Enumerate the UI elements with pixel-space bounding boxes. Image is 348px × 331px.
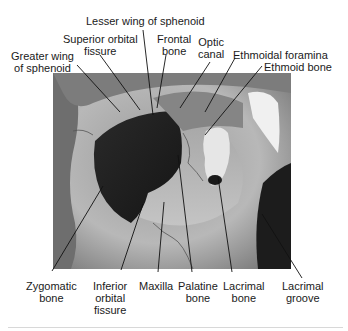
label-line: canal bbox=[198, 48, 224, 60]
label-line: Maxilla bbox=[139, 280, 173, 292]
label-line: Inferior bbox=[93, 280, 127, 292]
label-line: Superior orbital bbox=[63, 33, 138, 45]
label-line: Lacrimal bbox=[282, 280, 324, 292]
label-line: Greater wing bbox=[11, 50, 74, 62]
label-line: bone bbox=[26, 292, 77, 304]
label-line: bone bbox=[223, 292, 265, 304]
label-line: Lesser wing of sphenoid bbox=[86, 15, 205, 27]
label-line: Frontal bbox=[157, 33, 191, 45]
label-optic-canal: Optic canal bbox=[198, 36, 224, 60]
label-line: bone bbox=[178, 292, 218, 304]
label-line: Ethmoidal foramina bbox=[233, 49, 328, 61]
bottom-divider bbox=[8, 327, 343, 328]
label-frontal-bone: Frontal bone bbox=[157, 33, 191, 57]
label-inferior-orbital-fissure: Inferior orbital fissure bbox=[93, 280, 127, 316]
label-line: fissure bbox=[63, 45, 138, 57]
orbit-photograph bbox=[53, 73, 291, 269]
label-lacrimal-bone: Lacrimal bone bbox=[223, 280, 265, 304]
label-zygomatic-bone: Zygomatic bone bbox=[26, 280, 77, 304]
label-greater-wing-of-sphenoid: Greater wing of sphenoid bbox=[11, 50, 74, 74]
label-line: Optic bbox=[198, 36, 224, 48]
label-line: Zygomatic bbox=[26, 280, 77, 292]
label-line: Lacrimal bbox=[223, 280, 265, 292]
label-superior-orbital-fissure: Superior orbital fissure bbox=[63, 33, 138, 57]
label-ethmoid-bone: Ethmoid bone bbox=[264, 61, 332, 73]
label-line: bone bbox=[157, 45, 191, 57]
label-line: Ethmoid bone bbox=[264, 61, 332, 73]
orbit-illustration bbox=[53, 73, 291, 269]
label-line: groove bbox=[282, 292, 324, 304]
label-ethmoidal-foramina: Ethmoidal foramina bbox=[233, 49, 328, 61]
label-line: of sphenoid bbox=[11, 62, 74, 74]
label-lacrimal-groove: Lacrimal groove bbox=[282, 280, 324, 304]
label-maxilla: Maxilla bbox=[139, 280, 173, 292]
label-line: orbital bbox=[93, 292, 127, 304]
label-line: fissure bbox=[93, 304, 127, 316]
label-palatine-bone: Palatine bone bbox=[178, 280, 218, 304]
label-lesser-wing-of-sphenoid: Lesser wing of sphenoid bbox=[86, 15, 205, 27]
label-line: Palatine bbox=[178, 280, 218, 292]
